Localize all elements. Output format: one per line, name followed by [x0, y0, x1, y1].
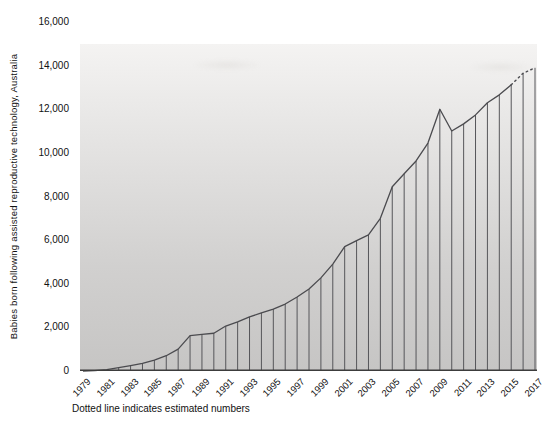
chart-canvas	[80, 44, 537, 371]
y-tick-label-8000: 8,000	[18, 191, 69, 203]
y-tick-label-10000: 10,000	[18, 147, 69, 159]
y-tick-label-2000: 2,000	[18, 321, 69, 333]
footnote-estimated-numbers: Dotted line indicates estimated numbers	[72, 403, 250, 414]
y-tick-label-4000: 4,000	[18, 278, 69, 290]
y-tick-label-12000: 12,000	[18, 103, 69, 115]
plot-area	[80, 44, 537, 371]
art-births-chart-figure: Babies born following assisted reproduct…	[0, 0, 557, 434]
y-tick-label-16000: 16,000	[18, 16, 69, 28]
y-tick-label-0: 0	[18, 365, 69, 377]
y-tick-label-14000: 14,000	[18, 60, 69, 72]
y-tick-label-6000: 6,000	[18, 234, 69, 246]
